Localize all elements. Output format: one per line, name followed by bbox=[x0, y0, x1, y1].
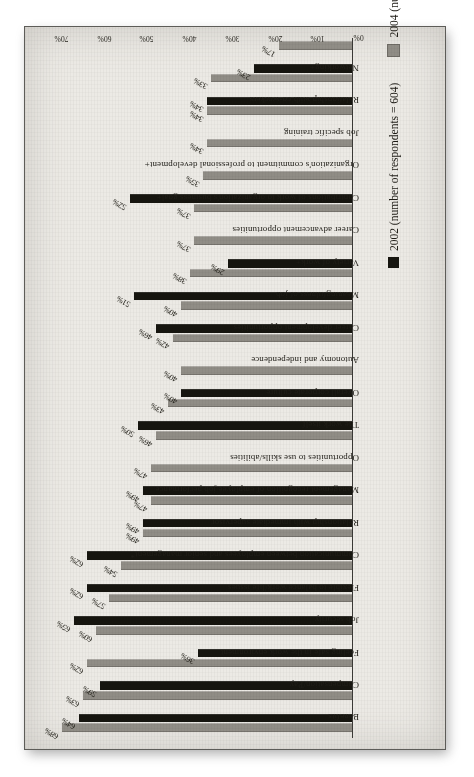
category-label: Opportunities to use skills/abilities bbox=[230, 453, 359, 463]
category-label: Organization's commitment to professiona… bbox=[145, 160, 359, 170]
bar-value-label-2004: 60% bbox=[77, 629, 94, 644]
bar-value-label-2002: 46% bbox=[137, 327, 154, 342]
bar-value-label-2004: 54% bbox=[102, 564, 119, 579]
chart-legend: 2002 (number of respondents = 604) 2004 … bbox=[387, 0, 400, 268]
bar-value-label-2004: 40% bbox=[162, 304, 179, 319]
category-label: Career development opportunities bbox=[233, 323, 359, 333]
category-label: Networking+ bbox=[310, 63, 359, 73]
bar-value-label-2004: 42% bbox=[154, 336, 171, 351]
bar-value-label-2002: 62% bbox=[68, 587, 85, 602]
bar-2004 bbox=[211, 74, 352, 83]
axis-tick-label: 50% bbox=[140, 34, 154, 43]
bar-value-label-2004: 43% bbox=[149, 401, 166, 416]
bar-value-label-2002: 50% bbox=[119, 424, 136, 439]
category-label: Management recognition of employee job p… bbox=[155, 485, 359, 495]
bar-value-label-2002: 51% bbox=[115, 294, 132, 309]
legend-item-2004: 2004 (number of respondents = 604) bbox=[387, 0, 400, 57]
bar-value-label-2004: 46% bbox=[137, 434, 154, 449]
bar-value-label-2004: 35% bbox=[184, 174, 201, 189]
category-label: Benefits bbox=[328, 713, 359, 723]
category-label: Feeling safe in the work environment bbox=[221, 648, 359, 658]
legend-label-2002: 2002 (number of respondents = 604) bbox=[388, 83, 400, 251]
chart-paper: 68%64%63%59%62%36%60%65%57%62%54%62%49%4… bbox=[24, 26, 446, 750]
category-label: Career advancement opportunities bbox=[232, 225, 359, 235]
category-label: Variety of work+ bbox=[296, 258, 359, 268]
scanned-page: 68%64%63%59%62%36%60%65%57%62%54%62%49%4… bbox=[0, 0, 474, 777]
bar-value-label-2004: 57% bbox=[90, 596, 107, 611]
axis-tick-label: 40% bbox=[183, 34, 197, 43]
bar-2004 bbox=[151, 464, 352, 473]
bar-2004 bbox=[109, 594, 352, 603]
bar-value-label-2004: 37% bbox=[175, 239, 192, 254]
axis-tick-label: 20% bbox=[268, 34, 282, 43]
category-label: Job specific training bbox=[284, 128, 359, 138]
category-label: Autonomy and independence bbox=[251, 355, 359, 365]
bar-value-label-2004: 38% bbox=[171, 271, 188, 286]
bar-2004 bbox=[62, 724, 352, 733]
legend-swatch-2004 bbox=[387, 44, 400, 57]
category-label: Contributions of work to organization's … bbox=[157, 193, 359, 203]
bar-value-label-2004: 63% bbox=[64, 694, 81, 709]
bar-value-label-extra: 17% bbox=[260, 44, 277, 59]
bar-2002 bbox=[79, 714, 352, 723]
bar-2004 bbox=[207, 139, 352, 148]
bar-2004 bbox=[194, 204, 352, 213]
bar-2004 bbox=[151, 496, 352, 505]
bar-2004 bbox=[194, 236, 352, 245]
bar-2004-extra bbox=[279, 41, 352, 50]
bar-value-label-2004: 62% bbox=[68, 661, 85, 676]
category-label: Job security bbox=[315, 615, 359, 625]
bar-value-label-2004: 33% bbox=[192, 77, 209, 92]
bar-value-label-2002: 65% bbox=[55, 619, 72, 634]
bar-2004 bbox=[181, 301, 352, 310]
rotated-chart-canvas: 68%64%63%59%62%36%60%65%57%62%54%62%49%4… bbox=[35, 38, 435, 738]
bar-2002 bbox=[74, 616, 352, 625]
bar-2004 bbox=[96, 626, 352, 635]
axis-tick-label: 70% bbox=[55, 34, 69, 43]
bar-value-label-2004: 37% bbox=[175, 207, 192, 222]
bar-2004 bbox=[143, 529, 352, 538]
bar-2004 bbox=[203, 171, 353, 180]
legend-swatch-2002 bbox=[388, 257, 399, 268]
category-label: Meaningfulness of job bbox=[276, 290, 359, 300]
bar-2004 bbox=[83, 691, 352, 700]
axis-tick-label: 10% bbox=[311, 34, 325, 43]
axis-tick-label: 0% bbox=[354, 34, 364, 43]
bar-value-label-2004: 47% bbox=[132, 466, 149, 481]
category-label: Compensation/Pay bbox=[289, 680, 359, 690]
bar-value-label-2002: 52% bbox=[111, 197, 128, 212]
bar-2004 bbox=[168, 399, 352, 408]
bar-2004 bbox=[181, 366, 352, 375]
bar-value-label-2004: 34% bbox=[188, 142, 205, 157]
bar-2004 bbox=[156, 431, 352, 440]
bar-2004 bbox=[121, 561, 352, 570]
bar-value-label-2004: 68% bbox=[43, 726, 60, 741]
category-label: Relationship with co-workers bbox=[250, 95, 359, 105]
bar-value-label-2004: 40% bbox=[162, 369, 179, 384]
category-label: Flexible to balance work/life issues bbox=[228, 583, 359, 593]
category-label: Overall corporate culture bbox=[266, 388, 359, 398]
bar-2004 bbox=[207, 106, 352, 115]
bar-2004 bbox=[173, 334, 352, 343]
category-label: Relationship with immediate supervisor bbox=[211, 518, 359, 528]
bar-2004 bbox=[87, 659, 352, 668]
axis-tick-label: 30% bbox=[225, 34, 239, 43]
legend-item-2002: 2002 (number of respondents = 604) bbox=[388, 83, 400, 268]
axis-tick-label: 60% bbox=[97, 34, 111, 43]
category-label: Communication between employees and seni… bbox=[130, 550, 359, 560]
category-label: The work itself bbox=[303, 420, 359, 430]
bar-value-label-2002: 62% bbox=[68, 554, 85, 569]
legend-label-2004: 2004 (number of respondents = 604) bbox=[388, 0, 400, 38]
